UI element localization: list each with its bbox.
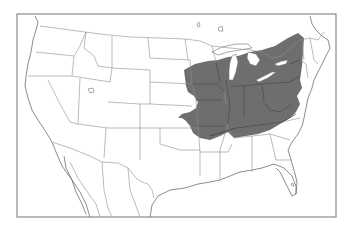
range-map: [0, 0, 354, 230]
